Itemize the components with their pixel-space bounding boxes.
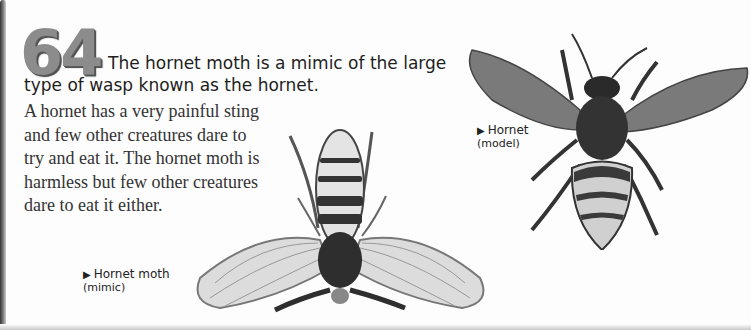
caption-subtitle: (model) — [477, 137, 528, 150]
caption-subtitle: (mimic) — [83, 281, 170, 294]
book-page: 64 The hornet moth is a mimic of the lar… — [0, 0, 751, 330]
page-bottom-edge — [0, 324, 751, 330]
page-spine-edge — [0, 0, 6, 330]
hornet-caption: ▶Hornet (model) — [477, 124, 528, 150]
caption-title: Hornet moth — [94, 267, 170, 281]
hornet-moth-caption: ▶Hornet moth (mimic) — [83, 268, 170, 294]
hornet-moth-illustration — [180, 118, 500, 318]
caption-title: Hornet — [488, 123, 529, 137]
fact-heading: The hornet moth is a mimic of the large … — [24, 52, 464, 96]
arrow-right-icon: ▶ — [83, 269, 91, 280]
fact-heading-text: The hornet moth is a mimic of the large … — [24, 53, 446, 95]
arrow-right-icon: ▶ — [477, 125, 485, 136]
